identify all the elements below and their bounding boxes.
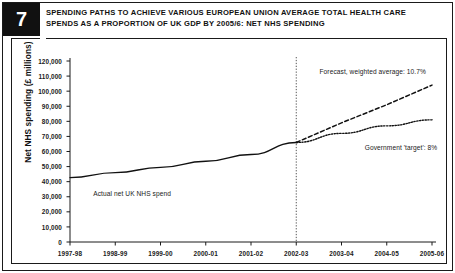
title-line-1: SPENDING PATHS TO ACHIEVE VARIOUS EUROPE… bbox=[46, 7, 444, 18]
x-tick-label: 1999-00 bbox=[138, 250, 184, 257]
x-tick-label: 2001-02 bbox=[228, 250, 274, 257]
title-line-2: SPENDS AS A PROPORTION OF UK GDP BY 2005… bbox=[46, 18, 444, 29]
y-tick-label: 80,000 bbox=[22, 118, 62, 125]
y-tick-label: 90,000 bbox=[22, 103, 62, 110]
x-tick-label: 2002-03 bbox=[273, 250, 319, 257]
y-tick-label: 40,000 bbox=[22, 178, 62, 185]
x-tick-label: 2005-06 bbox=[409, 250, 455, 257]
page-title: SPENDING PATHS TO ACHIEVE VARIOUS EUROPE… bbox=[46, 7, 444, 29]
y-tick-label: 20,000 bbox=[22, 208, 62, 215]
chart-page: 7 SPENDING PATHS TO ACHIEVE VARIOUS EURO… bbox=[0, 0, 455, 273]
x-tick-label: 1997-98 bbox=[47, 250, 93, 257]
y-tick-label: 50,000 bbox=[22, 163, 62, 170]
y-tick-label: 60,000 bbox=[22, 148, 62, 155]
chart-annotation-label: Forecast, weighted average: 10.7% bbox=[320, 68, 426, 75]
y-tick-label: 30,000 bbox=[22, 193, 62, 200]
y-tick-label: 100,000 bbox=[22, 88, 62, 95]
figure-number-badge: 7 bbox=[3, 3, 40, 36]
x-tick-label: 2004-05 bbox=[364, 250, 410, 257]
x-tick-label: 1998-99 bbox=[92, 250, 138, 257]
x-tick-label: 2000-01 bbox=[183, 250, 229, 257]
x-tick-label: 2003-04 bbox=[319, 250, 365, 257]
y-tick-label: 120,000 bbox=[22, 58, 62, 65]
y-tick-label: 0 bbox=[22, 239, 62, 246]
y-tick-label: 70,000 bbox=[22, 133, 62, 140]
y-tick-label: 10,000 bbox=[22, 224, 62, 231]
y-tick-label: 110,000 bbox=[22, 73, 62, 80]
chart-annotation-label: Government 'target': 8% bbox=[365, 144, 438, 151]
chart-annotation-label: Actual net UK NHS spend bbox=[93, 190, 171, 197]
